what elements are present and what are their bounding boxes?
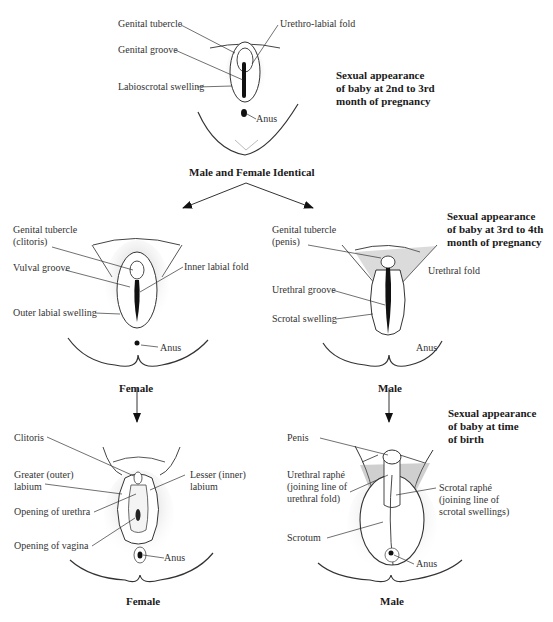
label-opening-vagina: Opening of vagina (14, 540, 88, 552)
label-anus-male-2: Anus (416, 342, 437, 354)
label-scrotal-swelling: Scrotal swelling (272, 313, 337, 325)
label-anus: Anus (256, 113, 277, 125)
label-outer-labial-swelling: Outer labial swelling (13, 307, 97, 319)
label-genital-tubercle-clitoris: Genital tubercle (clitoris) (13, 224, 77, 248)
label-genital-groove: Genital groove (118, 44, 178, 56)
caption-identical: Male and Female Identical (189, 166, 315, 178)
label-scrotal-raphe: Scrotal raphé (joining line of scrotal s… (439, 482, 509, 518)
label-urethral-raphe: Urethral raphé (joining line of urethral… (287, 469, 347, 505)
label-anus-male-3: Anus (416, 558, 437, 570)
label-clitoris: Clitoris (14, 432, 44, 444)
arrow-to-male (246, 183, 313, 208)
label-genital-tubercle: Genital tubercle (118, 18, 182, 30)
label-anus-female-2: Anus (160, 342, 181, 354)
caption-male-2: Male (378, 382, 402, 394)
label-urethro-labial-fold: Urethro-labial fold (280, 18, 355, 30)
stage1-illustration (198, 42, 298, 155)
label-anus-female-3: Anus (164, 552, 185, 564)
arrow-to-female (183, 183, 246, 208)
label-lesser-labium: Lesser (inner) labium (190, 469, 246, 493)
label-urethral-fold: Urethral fold (428, 265, 480, 277)
label-scrotum: Scrotum (287, 532, 321, 544)
label-opening-urethra: Opening of urethra (14, 506, 90, 518)
caption-female-3: Female (126, 595, 160, 607)
caption-male-3: Male (380, 595, 404, 607)
label-labioscrotal-swelling: Labioscrotal swelling (118, 81, 204, 93)
label-genital-tubercle-penis: Genital tubercle (penis) (272, 224, 336, 248)
label-vulval-groove: Vulval groove (13, 262, 70, 274)
label-urethral-groove: Urethral groove (272, 284, 336, 296)
label-greater-labium: Greater (outer) labium (14, 469, 74, 493)
stage1-heading: Sexual appearance of baby at 2nd to 3rd … (336, 69, 435, 108)
caption-female-2: Female (119, 382, 153, 394)
label-penis: Penis (287, 432, 309, 444)
stage3-female-illustration (70, 447, 213, 582)
stage2-heading: Sexual appearance of baby at 3rd to 4th … (447, 210, 543, 249)
stage3-heading: Sexual appearance of baby at time of bir… (448, 407, 536, 446)
label-inner-labial-fold: Inner labial fold (184, 261, 248, 273)
